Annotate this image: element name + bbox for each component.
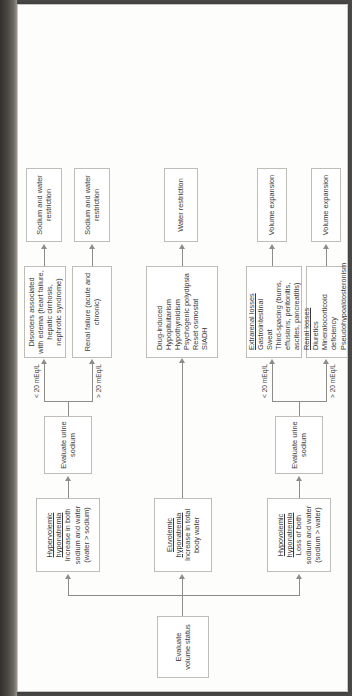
connector-hyper-split-vertical bbox=[44, 401, 92, 402]
arrow-hyper-gt bbox=[89, 359, 95, 364]
arrow-eu-to-causes bbox=[179, 358, 185, 363]
label-hypo-gt-threshold: > 20 mEq/L bbox=[329, 364, 336, 398]
connector-renallosses-to-tx bbox=[326, 249, 327, 266]
extrarenal-losses-title: Extrarenal losses bbox=[246, 270, 255, 350]
node-euvolemic-treatment[interactable]: Water restriction bbox=[164, 168, 198, 242]
extrarenal-losses-list: Gastrointestinal Sweat Third-spacing (bu… bbox=[255, 270, 300, 350]
arrow-renallosses-to-tx bbox=[323, 244, 329, 249]
renal-losses-title: Renal losses bbox=[302, 270, 311, 350]
arrow-extrarenal-to-tx bbox=[269, 244, 275, 249]
hypovolemic-decision-label: Evaluate urine sodium bbox=[289, 420, 307, 470]
connector-hypo-to-decision bbox=[299, 481, 300, 498]
renal-losses-treatment-label: Volume expansion bbox=[321, 175, 330, 235]
connector-renalfailure-to-tx bbox=[92, 249, 93, 266]
connector-eu-to-causes bbox=[182, 363, 183, 498]
node-extrarenal-treatment[interactable]: Volume expansion bbox=[257, 168, 287, 242]
node-renal-losses-treatment[interactable]: Volume expansion bbox=[311, 168, 341, 242]
node-evaluate-volume-status[interactable]: Evaluate volume status bbox=[157, 616, 209, 678]
arrow-hypo-lt bbox=[269, 359, 275, 364]
arrow-eucauses-to-tx bbox=[179, 244, 185, 249]
scan-edge-shadow bbox=[0, 0, 17, 696]
node-renal-failure-treatment[interactable]: Sodium and water restriction bbox=[74, 168, 110, 242]
arrow-hypo-gt bbox=[323, 359, 329, 364]
connector-to-hypovolemic bbox=[299, 579, 300, 596]
label-hyper-lt-threshold: < 20 mEq/L bbox=[33, 364, 40, 398]
connector-eucauses-to-tx bbox=[182, 249, 183, 266]
label-hypo-lt-threshold: < 20 mEq/L bbox=[261, 364, 268, 398]
connector-hypo-gt-arm bbox=[326, 364, 327, 402]
hypervolemic-decision-label: Evaluate urine sodium bbox=[58, 420, 76, 470]
connector-hyper-to-decision bbox=[68, 481, 69, 498]
connector-to-hypervolemic bbox=[68, 579, 69, 596]
node-hypovolemic-evaluate-urine-sodium[interactable]: Evaluate urine sodium bbox=[275, 416, 323, 474]
connector-root-trunk bbox=[182, 596, 183, 616]
hypovolemic-title: Hypovolemic hyponatremia bbox=[276, 502, 294, 568]
node-hypervolemic-evaluate-urine-sodium[interactable]: Evaluate urine sodium bbox=[44, 416, 92, 474]
scanned-page-canvas: Evaluate volume status Hypervolemic hypo… bbox=[0, 0, 352, 696]
label-hyper-gt-threshold: > 20 mEq/L bbox=[95, 364, 102, 398]
edema-treatment-label: Sodium and water restriction bbox=[34, 172, 52, 238]
document-page: Evaluate volume status Hypervolemic hypo… bbox=[17, 4, 348, 692]
node-euvolemic-hyponatremia[interactable]: Euvolemic hyponatremia Increase in total… bbox=[154, 498, 212, 572]
euvolemic-title: Euvolemic hyponatremia bbox=[164, 502, 182, 568]
connector-edema-to-tx bbox=[44, 249, 45, 266]
node-edema-disorders[interactable]: Disorders associated with edema (heart f… bbox=[24, 266, 66, 358]
hypervolemic-subtitle: Increase in both sodium and water (water… bbox=[63, 502, 90, 568]
node-euvolemic-causes[interactable]: Drug-induced Hypopituitarism Hypothyroid… bbox=[146, 266, 218, 358]
euvolemic-causes-list: Drug-induced Hypopituitarism Hypothyroid… bbox=[154, 270, 208, 350]
extrarenal-treatment-label: Volume expansion bbox=[267, 175, 276, 235]
edema-disorders-label: Disorders associated with edema (heart f… bbox=[26, 270, 62, 354]
connector-hyper-split-stem bbox=[68, 402, 69, 416]
connector-hypo-split-vertical bbox=[272, 401, 326, 402]
node-renal-failure[interactable]: Renal failure (acute and chronic) bbox=[72, 266, 112, 358]
arrow-edema-to-tx bbox=[41, 244, 47, 249]
node-hypovolemic-hyponatremia[interactable]: Hypovolemic hyponatremia Loss of both so… bbox=[267, 498, 331, 572]
connector-hypo-split-stem bbox=[299, 402, 300, 416]
arrow-hyper-to-decision bbox=[65, 476, 71, 481]
arrow-renalfailure-to-tx bbox=[89, 244, 95, 249]
hypovolemic-subtitle: Loss of both sodium and water (sodium > … bbox=[294, 502, 321, 568]
flowchart-root: Evaluate volume status Hypervolemic hypo… bbox=[24, 12, 342, 684]
connector-hyper-lt-arm bbox=[44, 364, 45, 402]
hypervolemic-title: Hypervolemic hyponatremia bbox=[45, 502, 63, 568]
connector-trunk-vertical bbox=[68, 595, 299, 596]
arrow-hypo-to-decision bbox=[296, 476, 302, 481]
node-extrarenal-losses[interactable]: Extrarenal losses Gastrointestinal Sweat… bbox=[246, 266, 302, 358]
root-label: Evaluate volume status bbox=[173, 620, 191, 674]
renal-failure-label: Renal failure (acute and chronic) bbox=[82, 270, 100, 354]
node-renal-losses[interactable]: Renal losses Diuretics Mineralocorticoid… bbox=[306, 266, 349, 358]
connector-extrarenal-to-tx bbox=[272, 249, 273, 266]
node-edema-treatment[interactable]: Sodium and water restriction bbox=[26, 168, 62, 242]
connector-hyper-gt-arm bbox=[92, 364, 93, 402]
connector-hypo-lt-arm bbox=[272, 364, 273, 402]
arrow-hyper-lt bbox=[41, 359, 47, 364]
euvolemic-treatment-label: Water restriction bbox=[176, 178, 185, 232]
renal-losses-list: Diuretics Mineralocorticoid deficiency P… bbox=[311, 270, 348, 350]
arrow-to-euvolemic bbox=[179, 574, 185, 579]
arrow-to-hypovolemic bbox=[296, 574, 302, 579]
arrow-to-hypervolemic bbox=[65, 574, 71, 579]
connector-to-euvolemic bbox=[182, 579, 183, 596]
node-hypervolemic-hyponatremia[interactable]: Hypervolemic hyponatremia Increase in bo… bbox=[36, 498, 100, 572]
renal-failure-treatment-label: Sodium and water restriction bbox=[82, 172, 100, 238]
euvolemic-subtitle: Increase in total body water bbox=[183, 502, 201, 568]
